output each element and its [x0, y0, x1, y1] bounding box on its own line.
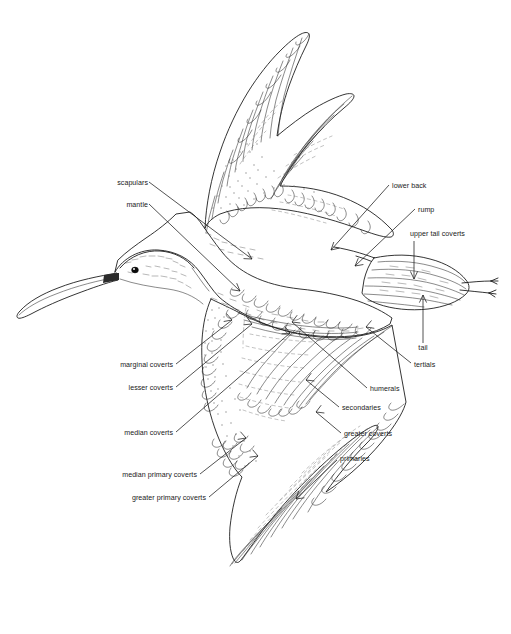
label-scapulars: scapulars — [117, 179, 148, 187]
label-secondaries: secondaries — [342, 404, 381, 412]
label-marginal-coverts: marginal coverts — [120, 361, 173, 369]
eye — [132, 267, 139, 273]
label-lower-back: lower back — [392, 182, 427, 190]
label-mantle: mantle — [126, 201, 148, 209]
label-primaries: primaries — [340, 455, 370, 463]
label-upper-tail-coverts: upper tail coverts — [410, 230, 465, 238]
label-greater-primary-coverts: greater primary coverts — [132, 494, 206, 502]
label-lesser-coverts: lesser coverts — [129, 384, 174, 392]
label-tertials: tertials — [414, 361, 436, 369]
bird-topography-illustration: scapulars mantle marginal coverts lesser… — [0, 0, 511, 634]
label-greater-coverts: greater coverts — [344, 430, 392, 438]
label-tail: tail — [418, 344, 428, 352]
eye-highlight — [133, 268, 135, 270]
label-median-primary-coverts: median primary coverts — [122, 471, 197, 479]
label-median-coverts: median coverts — [124, 429, 173, 437]
label-humerals: humerals — [370, 385, 400, 393]
label-rump: rump — [418, 206, 434, 214]
diagram-canvas: scapulars mantle marginal coverts lesser… — [0, 0, 511, 634]
